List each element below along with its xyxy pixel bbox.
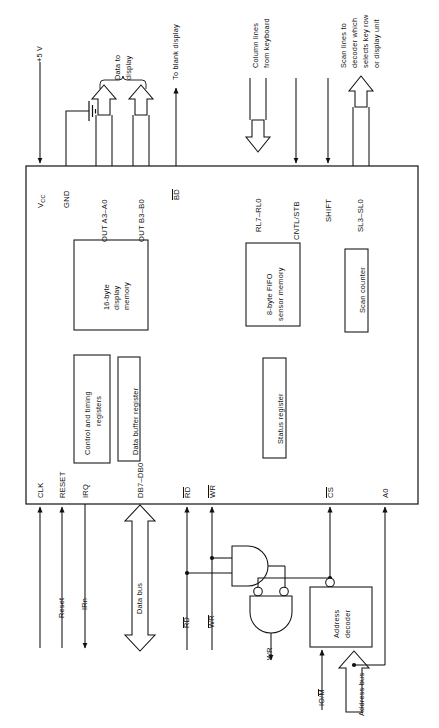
pin-label-out-a: OUT A3–A0 <box>100 199 109 242</box>
pin-label-sl: SL3–SL0 <box>356 199 365 232</box>
block-label-control-timing-line1: Control and timing <box>84 391 93 455</box>
block-label-fifo-line2: sensor memory <box>277 267 286 321</box>
block-label-control-timing-line2: registers <box>95 396 104 426</box>
pin-label-rd: RD <box>183 487 192 498</box>
out-b-block-arrow <box>129 85 153 115</box>
pin-label-vcc: VCC <box>36 194 46 208</box>
decoder-output-bubble <box>326 578 335 587</box>
pin-label-wr: WR <box>208 485 217 498</box>
block-label-status-register: Status register <box>277 393 286 444</box>
pin-label-shift: SHIFT <box>324 199 333 222</box>
nand-input-bubble-2 <box>280 587 289 596</box>
annotation-reset-signal: Reset <box>58 598 67 618</box>
sl-block-arrow <box>349 76 373 107</box>
nand-gate-body <box>250 596 292 633</box>
block-label-address-decoder-line1: Address <box>333 609 342 638</box>
annotation-scan-lines-line2: decoder which <box>351 18 360 68</box>
block-label-address-decoder-line2: decoder <box>344 610 353 638</box>
pin-label-rl: RL7–RL0 <box>254 198 263 232</box>
data-bus-block-arrow <box>125 505 155 651</box>
annotation-address-bus: Address bus <box>358 673 367 716</box>
gnd-line <box>66 111 89 166</box>
pin-label-cntl-stb: CNTL/STB <box>292 201 301 240</box>
annotation-scan-lines-line1: Scan lines to <box>340 23 349 68</box>
annotation-column-lines-line1: Column lines <box>252 23 261 68</box>
annotation-data-to-display-line2: display <box>125 56 134 80</box>
annotation-plus5v: +5 V <box>36 46 45 62</box>
pin-label-cs: CS <box>326 487 335 498</box>
annotation-scan-lines-line4: or display unit <box>373 19 382 68</box>
annotation-data-to-display-line1: Data to <box>114 55 123 80</box>
annotation-scan-lines-line3: selects key row <box>362 14 371 68</box>
annotation-irn-signal: IRn <box>81 598 90 610</box>
annotation-data-bus: Data bus <box>136 583 145 614</box>
and-gate-body <box>232 546 268 586</box>
block-label-display-memory-line1: 16-byte <box>103 284 112 310</box>
pin-label-out-b: OUT B3–B0 <box>137 199 146 242</box>
pin-label-irq: IRQ <box>81 484 90 498</box>
cs-to-nand-wire <box>258 578 330 587</box>
pin-label-a0: A0 <box>381 488 390 498</box>
annotation-wr-signal: WR <box>208 615 217 628</box>
a0-junction-dot <box>352 663 356 667</box>
nand-input-bubble-1 <box>254 587 263 596</box>
annotation-ready-signal: WR <box>266 647 275 660</box>
annotation-rd-signal: RD <box>183 617 192 628</box>
pin-label-reset: RESET <box>58 471 67 498</box>
wr-junction-dot <box>210 556 214 560</box>
rd-junction-dot <box>185 571 189 575</box>
pin-label-db: DB7–DB0 <box>136 462 145 498</box>
block-label-scan-counter: Scan counter <box>359 267 368 313</box>
rl-block-arrow <box>246 120 270 152</box>
block-label-fifo-line1: 8-byte FIFO <box>266 273 275 315</box>
pin-label-clk: CLK <box>36 482 45 498</box>
annotation-column-lines-line2: from keyboard <box>263 18 272 68</box>
annotation-to-blank-display: To blank display <box>172 24 181 80</box>
diagram-canvas: +5 V Data to display To blank display Co… <box>0 0 439 728</box>
block-label-display-memory-line2: display <box>113 286 122 310</box>
annotation-iom-signal: IO/M <box>318 689 327 706</box>
block-label-data-buffer: Data buffer register <box>132 388 141 455</box>
pin-label-gnd: GND <box>62 190 71 208</box>
pin-label-bd: BD <box>172 189 181 200</box>
block-diagram-svg <box>0 0 439 728</box>
block-label-display-memory-line3: memory <box>123 282 132 310</box>
